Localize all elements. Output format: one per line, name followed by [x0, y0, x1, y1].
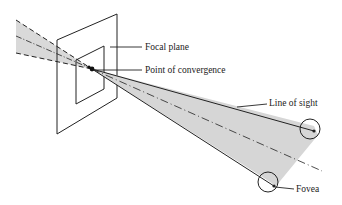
focal-plane-label: Focal plane: [145, 42, 189, 52]
diagram-canvas: Focal plane Point of convergence Line of…: [0, 0, 342, 205]
vergence-diagram: Focal plane Point of convergence Line of…: [0, 0, 342, 205]
line-of-sight-label: Line of sight: [269, 98, 318, 108]
point-of-convergence-label: Point of convergence: [145, 65, 226, 75]
convergence-point-shadow: [87, 65, 90, 68]
right-fovea-dot: [312, 129, 315, 132]
fovea-label: Fovea: [296, 184, 320, 194]
line-of-sight-leader: [237, 104, 267, 107]
fovea-leader: [275, 187, 294, 189]
front-view-cone: [92, 69, 318, 186]
